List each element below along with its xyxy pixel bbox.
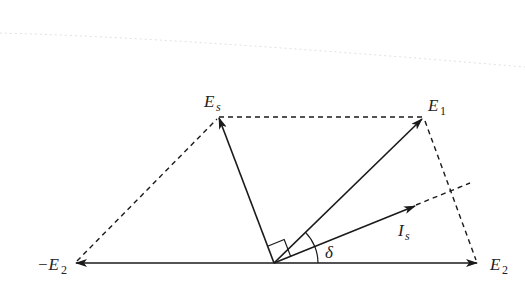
- svg-text:I: I: [397, 221, 405, 240]
- svg-text:−E: −E: [37, 255, 59, 274]
- label-delta: δ: [325, 243, 334, 262]
- svg-text:E: E: [203, 92, 215, 111]
- phasor-diagram: E s E 1 −E 2 E 2 I s δ: [0, 0, 525, 295]
- dashed-is-extension: [416, 183, 470, 205]
- svg-text:1: 1: [440, 104, 446, 118]
- dashed-neg-e2-to-es: [77, 119, 217, 261]
- svg-text:E: E: [489, 255, 501, 274]
- label-e2: E 2: [489, 255, 508, 277]
- svg-text:s: s: [405, 229, 410, 243]
- svg-text:2: 2: [61, 263, 67, 277]
- svg-text:2: 2: [502, 263, 508, 277]
- svg-text:E: E: [427, 96, 439, 115]
- label-neg-e2: −E 2: [37, 255, 67, 277]
- label-is: I s: [397, 221, 410, 243]
- vector-e1: [274, 119, 422, 263]
- vector-is: [274, 206, 415, 263]
- label-es: E s: [203, 92, 221, 114]
- label-e1: E 1: [427, 96, 446, 118]
- svg-text:s: s: [216, 100, 221, 114]
- e1-angle-arc: [306, 232, 315, 246]
- vector-es: [219, 118, 274, 263]
- scan-artifact-line: [0, 33, 525, 67]
- delta-angle-arc: [315, 247, 318, 264]
